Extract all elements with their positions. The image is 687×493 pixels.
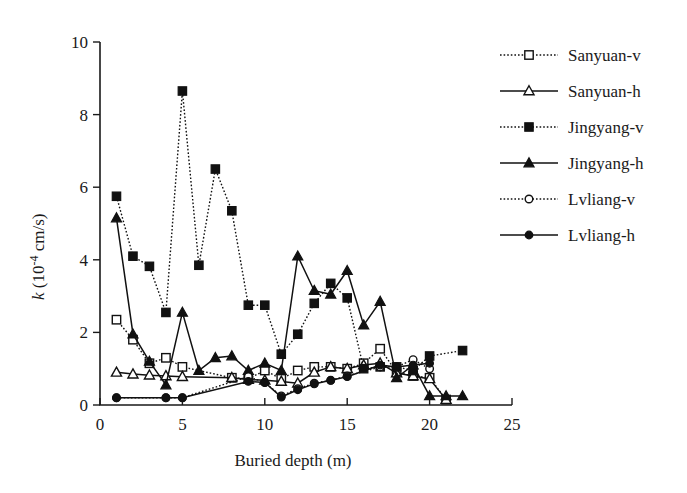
y-axis-title-exponent: -4 xyxy=(27,256,41,266)
marker-filled-circle xyxy=(343,373,351,381)
marker-filled-square xyxy=(178,87,186,95)
marker-filled-circle xyxy=(310,380,318,388)
marker-filled-square xyxy=(458,346,466,354)
marker-filled-square xyxy=(162,308,170,316)
legend-label: Jingyang-h xyxy=(568,154,644,173)
marker-filled-circle xyxy=(426,359,434,367)
y-tick-label: 6 xyxy=(80,178,89,197)
legend-label: Sanyuan-h xyxy=(568,82,641,101)
x-tick-label: 10 xyxy=(256,415,273,434)
x-axis-title: Buried depth (m) xyxy=(234,451,351,470)
marker-filled-square xyxy=(228,207,236,215)
marker-filled-square xyxy=(294,330,302,338)
legend-label: Lvliang-v xyxy=(568,190,636,209)
marker-filled-square xyxy=(244,301,252,309)
marker-filled-square xyxy=(310,299,318,307)
marker-filled-circle xyxy=(261,379,269,387)
y-tick-label: 10 xyxy=(71,33,88,52)
marker-filled-circle xyxy=(327,377,335,385)
marker-filled-square xyxy=(112,192,120,200)
x-tick-label: 20 xyxy=(421,415,438,434)
marker-filled-square xyxy=(145,262,153,270)
y-axis-title-open: (10 xyxy=(29,266,48,293)
y-tick-label: 4 xyxy=(80,251,89,270)
y-axis-title-close: cm/s) xyxy=(29,214,48,256)
marker-filled-square xyxy=(211,165,219,173)
x-tick-label: 5 xyxy=(178,415,187,434)
marker-filled-square xyxy=(261,301,269,309)
marker-filled-circle xyxy=(113,394,121,402)
marker-filled-circle xyxy=(409,361,417,369)
marker-open-circle xyxy=(525,195,533,203)
y-tick-label: 0 xyxy=(80,396,89,415)
x-tick-label: 0 xyxy=(96,415,105,434)
y-tick-label: 8 xyxy=(80,106,89,125)
legend-label: Sanyuan-v xyxy=(568,46,641,65)
chart-figure: 02468100510152025 Sanyuan-vSanyuan-hJing… xyxy=(0,0,687,493)
marker-filled-square xyxy=(195,261,203,269)
marker-filled-circle xyxy=(162,394,170,402)
marker-filled-square xyxy=(525,123,533,131)
marker-filled-circle xyxy=(179,394,187,402)
marker-filled-circle xyxy=(294,386,302,394)
legend-label: Lvliang-h xyxy=(568,226,636,245)
marker-filled-circle xyxy=(245,378,253,386)
marker-filled-circle xyxy=(393,363,401,371)
marker-filled-circle xyxy=(525,231,533,239)
marker-open-square xyxy=(376,345,384,353)
marker-open-square xyxy=(162,354,170,362)
marker-filled-circle xyxy=(376,361,384,369)
marker-open-square xyxy=(294,366,302,374)
marker-filled-square xyxy=(129,252,137,260)
marker-open-square xyxy=(178,363,186,371)
marker-filled-square xyxy=(327,279,335,287)
marker-open-square xyxy=(525,51,533,59)
x-tick-label: 15 xyxy=(339,415,356,434)
legend-label: Jingyang-v xyxy=(568,118,644,137)
x-tick-label: 25 xyxy=(504,415,521,434)
marker-filled-circle xyxy=(277,393,285,401)
marker-open-square xyxy=(112,315,120,323)
y-tick-label: 2 xyxy=(80,323,89,342)
marker-filled-square xyxy=(343,294,351,302)
